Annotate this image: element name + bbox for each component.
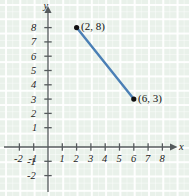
data-segment [74,25,136,102]
y-tick-label-6: 6 [31,52,36,63]
x-tick-label-8: 8 [160,154,165,165]
x-axis-label: x [179,142,184,153]
x-tick-label-4: 4 [102,154,107,165]
coordinate-plane-figure: 8 7 6 5 4 3 2 1 -1 -2 -2 -1 1 2 3 4 5 6 … [0,0,189,196]
x-tick-label-neg2: -2 [14,154,23,165]
x-tick-label-1: 1 [60,154,65,165]
y-tick-label-neg2: -2 [27,171,36,182]
x-tick-label-2: 2 [74,154,79,165]
y-tick-label-8: 8 [31,23,36,34]
x-tick-label-neg1: -1 [29,154,38,165]
x-tick-label-3: 3 [88,154,93,165]
point-label-2-8: (2, 8) [81,21,105,32]
x-tick-label-5: 5 [117,154,122,165]
x-tick-label-6: 6 [131,154,136,165]
y-tick-label-2: 2 [31,109,36,120]
point-label-6-3: (6, 3) [138,93,162,104]
y-tick-label-3: 3 [31,95,36,106]
y-axis [44,6,51,192]
y-tick-label-4: 4 [31,80,36,91]
x-axis [4,143,178,150]
y-tick-label-1: 1 [32,123,37,134]
y-tick-label-7: 7 [31,37,36,48]
y-axis-label: y [44,1,49,12]
x-tick-label-7: 7 [145,154,150,165]
y-tick-label-5: 5 [31,66,36,77]
